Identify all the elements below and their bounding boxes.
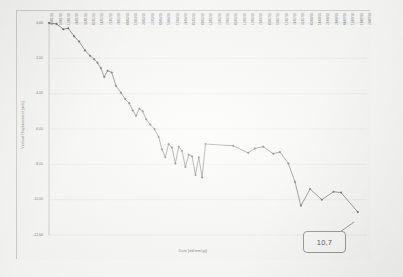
x-axis-tick-label: 07/02/16: [92, 13, 96, 25]
x-axis-tick-label: 15/05/16: [209, 13, 213, 25]
x-axis-tick-label: 21/02/16: [109, 13, 113, 25]
x-axis-tick-label: 05/06/16: [234, 13, 238, 25]
chart-plot-area: [17, 11, 371, 260]
x-axis-tick-label: 21/08/16: [326, 13, 330, 25]
y-axis-tick-label: -8,00: [21, 162, 43, 166]
x-axis-tick-label: 03/01/16: [50, 13, 54, 25]
value-callout-box: 10,7: [303, 231, 346, 253]
y-axis-tick-label: -12,00: [21, 233, 43, 237]
x-axis-tick-label: 10/07/16: [276, 13, 280, 25]
x-axis-tick-label: 24/04/16: [184, 13, 188, 25]
x-axis-tick-label: 14/02/16: [100, 13, 104, 25]
x-axis-tick-label: 06/03/16: [126, 13, 130, 25]
x-axis-tick-label: 17/07/16: [285, 13, 289, 25]
x-axis-tick-label: 14/08/16: [318, 13, 322, 25]
x-axis-tick-label: 31/07/16: [301, 13, 305, 25]
x-axis-tick-label: 03/04/16: [159, 13, 163, 25]
x-axis-tick-label: 31/01/16: [84, 13, 88, 25]
y-axis-title: Vertical Displacement [mm]: [21, 93, 25, 157]
y-axis-tick-label: -10,00: [21, 197, 43, 201]
x-axis-tick-label: 13/03/16: [134, 13, 138, 25]
x-axis-tick-label: 08/05/16: [201, 13, 205, 25]
x-axis-tick-label: 17/04/16: [176, 13, 180, 25]
x-axis-tick-label: 28/08/16: [335, 13, 339, 25]
scanned-page: 0,00-2,00-4,00-6,00-8,00-10,00-12,00 03/…: [0, 0, 403, 277]
x-axis-tick-label: 29/05/16: [226, 13, 230, 25]
x-axis-tick-label: 10/04/16: [167, 13, 171, 25]
x-axis-tick-label: 27/03/16: [151, 13, 155, 25]
y-axis-tick-label: -2,00: [21, 56, 43, 60]
x-axis-tick-label: 22/05/16: [218, 13, 222, 25]
x-axis-tick-label: 25/09/16: [368, 13, 372, 25]
y-axis-tick-label: 0,00: [21, 21, 43, 25]
x-axis-tick-label: 04/09/16: [343, 13, 347, 25]
x-axis-tick-label: 28/02/16: [117, 13, 121, 25]
x-axis-tick-label: 12/06/16: [243, 13, 247, 25]
chart-frame: 0,00-2,00-4,00-6,00-8,00-10,00-12,00 03/…: [16, 10, 370, 259]
x-axis-tick-label: 18/09/16: [360, 13, 364, 25]
x-axis-tick-label: 03/07/16: [268, 13, 272, 25]
x-axis-tick-label: 07/08/16: [310, 13, 314, 25]
x-axis-tick-label: 10/01/16: [59, 13, 63, 25]
x-axis-tick-label: 20/03/16: [142, 13, 146, 25]
x-axis-tick-label: 24/07/16: [293, 13, 297, 25]
plot-background: [17, 11, 371, 260]
x-axis-tick-label: 01/05/16: [192, 13, 196, 25]
x-axis-tick-label: 26/06/16: [259, 13, 263, 25]
x-axis-tick-label: 19/06/16: [251, 13, 255, 25]
x-axis-tick-label: 11/09/16: [351, 13, 355, 25]
x-axis-tick-label: 17/01/16: [67, 13, 71, 25]
x-axis-tick-label: 24/01/16: [75, 13, 79, 25]
